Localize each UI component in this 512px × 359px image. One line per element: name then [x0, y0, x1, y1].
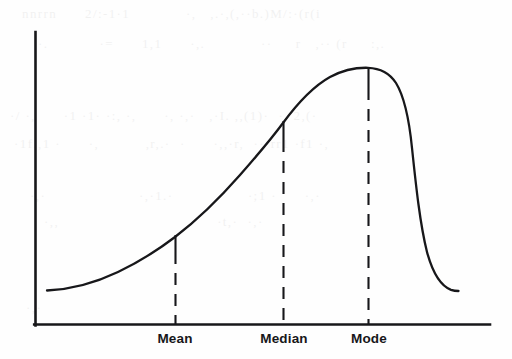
x-tick-label-mode: Mode [351, 332, 387, 346]
frequency-curve [47, 68, 459, 291]
x-tick-label-mean: Mean [157, 332, 192, 346]
skewed-distribution-figure: nnrrn 2/:-1·1 ·, ,.·,(,··b.)M/:·(r(i ·. … [0, 0, 512, 359]
x-tick-label-median: Median [260, 332, 307, 346]
distribution-plot [0, 0, 512, 359]
